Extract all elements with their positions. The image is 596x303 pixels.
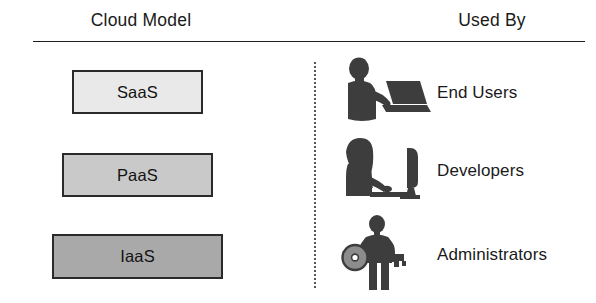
cloud-model-box-paas[interactable]: PaaS <box>62 153 213 197</box>
header-divider-line <box>33 41 585 42</box>
person-holding-key-icon <box>330 212 434 286</box>
used-by-label-developers: Developers <box>437 134 524 208</box>
used-by-label-administrators: Administrators <box>437 218 547 292</box>
diagram-canvas: Cloud Model Used By SaaS PaaS IaaS <box>0 0 596 303</box>
vertical-dotted-divider <box>314 62 316 288</box>
used-by-label-end-users: End Users <box>437 56 517 130</box>
column-header-used-by: Used By <box>412 10 572 31</box>
cloud-model-label: IaaS <box>120 247 155 266</box>
person-with-laptop-icon <box>330 56 434 130</box>
person-at-desktop-computer-icon <box>330 134 434 208</box>
used-by-row-developers[interactable]: Developers <box>330 134 596 208</box>
cloud-model-box-iaas[interactable]: IaaS <box>52 234 223 279</box>
used-by-row-administrators[interactable]: Administrators <box>330 212 596 286</box>
used-by-row-end-users[interactable]: End Users <box>330 56 596 130</box>
column-header-cloud-model: Cloud Model <box>41 10 241 31</box>
cloud-model-label: PaaS <box>117 166 158 185</box>
cloud-model-label: SaaS <box>117 83 158 102</box>
cloud-model-box-saas[interactable]: SaaS <box>72 70 203 114</box>
